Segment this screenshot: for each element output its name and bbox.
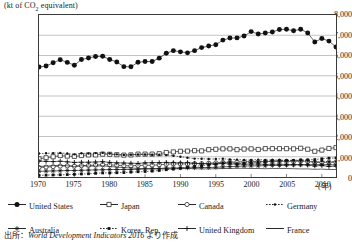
source-suffix: より作成 [144, 231, 178, 240]
source-note: 出所：World Development Indicators 2016 より作… [4, 229, 178, 240]
legend-label: United States [29, 201, 73, 213]
legend-row: AustraliaKorea, Rep.United KingdomFrance [8, 212, 346, 224]
x-tick-label: 2005 [267, 180, 307, 189]
series-united-states [39, 27, 336, 70]
legend-item-united-kingdom[interactable]: United Kingdom [178, 224, 254, 237]
x-tick-label: 1985 [125, 180, 165, 189]
legend-item-france[interactable]: France [266, 224, 309, 237]
x-tick-label: 1990 [160, 180, 200, 189]
legend-label: Canada [199, 201, 224, 213]
x-tick-label: 1975 [54, 180, 94, 189]
chart-plot-area [38, 14, 337, 178]
x-tick-label: 1980 [89, 180, 129, 189]
axis-unit-title: (kt of CO2 equivalent) [4, 1, 78, 12]
legend-label: France [287, 225, 309, 237]
source-title: World Development Indicators 2016 [28, 231, 144, 240]
x-tick-label: 1995 [196, 180, 236, 189]
x-tick-label: 1970 [18, 180, 58, 189]
data-series-layer [39, 15, 336, 177]
chart-legend: United StatesJapanCanadaGermanyAustralia… [8, 200, 346, 224]
x-axis-label: (年) [318, 180, 331, 191]
legend-marker-icon [178, 224, 196, 237]
legend-label: United Kingdom [199, 225, 254, 237]
legend-row: United StatesJapanCanadaGermany [8, 200, 346, 212]
legend-label: Germany [287, 201, 317, 213]
legend-label: Japan [121, 201, 140, 213]
unit-title-head: (kt of CO [4, 1, 36, 10]
source-prefix: 出所： [4, 231, 28, 240]
legend-marker-icon [266, 224, 284, 237]
unit-title-tail: equivalent) [39, 1, 78, 10]
x-tick-label: 2000 [232, 180, 272, 189]
